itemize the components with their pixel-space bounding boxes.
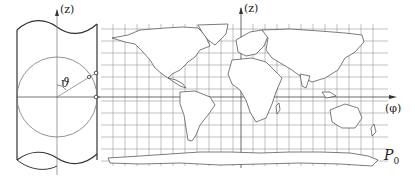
- cylindrical-projection-diagram: (z) ϑ (z) (φ) P0: [0, 0, 415, 177]
- theta-label: ϑ: [61, 77, 70, 89]
- sphere-point: [87, 75, 90, 78]
- phi-arrow-icon: [389, 95, 397, 99]
- australia: [330, 104, 362, 128]
- phi-label: (φ): [385, 103, 401, 114]
- cylinder-z-label: (z): [60, 4, 74, 15]
- new-zealand: [371, 124, 376, 136]
- point-label: P: [384, 147, 393, 163]
- africa: [228, 58, 282, 122]
- continents: [108, 24, 378, 166]
- map-z-label: (z): [244, 3, 258, 14]
- point-p0-label: P0: [384, 148, 399, 166]
- antarctica: [108, 152, 378, 166]
- map-z-arrow-icon: [239, 7, 243, 14]
- madagascar: [276, 103, 280, 114]
- point-subscript: 0: [393, 156, 399, 166]
- central-america: [168, 78, 186, 88]
- projected-point: [94, 71, 98, 75]
- north-america: [112, 27, 210, 78]
- india: [300, 74, 310, 88]
- z-arrow-icon: [55, 9, 59, 16]
